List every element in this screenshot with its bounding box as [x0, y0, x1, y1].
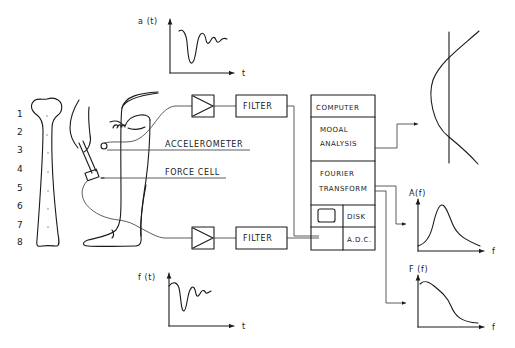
force-time-plot: f (t) t — [138, 273, 246, 331]
A-f-curve — [418, 205, 480, 246]
amplifier-triangle-icon — [193, 228, 213, 248]
force-cell-head — [85, 169, 99, 181]
impact-hammer — [79, 141, 96, 173]
position-label: 4 — [17, 164, 23, 174]
A-f-ylabel: A(f) — [409, 189, 426, 198]
modal-analysis-line1: MOOAL — [320, 126, 348, 134]
F-f-ylabel: F (f) — [409, 265, 428, 274]
lower-amplifier — [192, 227, 214, 249]
accelerometer-label: ACCELEROMETER — [165, 140, 243, 149]
F-f-xlabel: f — [492, 323, 495, 332]
upper-amplifier — [192, 95, 214, 117]
force-spectrum-plot: F (f) f — [409, 265, 495, 332]
disk-icon — [318, 209, 335, 222]
position-label: 7 — [17, 220, 23, 230]
f-t-ylabel: f (t) — [138, 273, 156, 282]
force-cable — [82, 180, 192, 238]
upper-filter-to-adc — [287, 106, 319, 236]
f-t-xlabel: t — [242, 322, 246, 331]
computer-block: COMPUTER MOOAL ANALYSIS FOURIER TRANSFOR… — [311, 95, 375, 250]
hammer-hand — [70, 100, 91, 152]
accelerometer-sensor — [101, 143, 107, 149]
acceleration-time-plot: a (t) t — [138, 17, 246, 78]
diagram-canvas: a (t) t f (t) t 1 2 3 4 5 6 7 8 — [0, 0, 515, 348]
position-label: 6 — [17, 201, 23, 211]
response-spectrum-plot: A(f) f — [409, 189, 495, 256]
modal-to-mode-shape-arrow — [375, 124, 418, 148]
A-f-xlabel: f — [492, 247, 495, 256]
hand-on-knee — [110, 115, 150, 130]
adc-label: A.D.C. — [347, 236, 372, 244]
computer-header: COMPUTER — [316, 104, 359, 112]
tibia-bone — [31, 98, 61, 246]
a-t-xlabel: t — [242, 69, 246, 78]
fourier-line1: FOURIER — [320, 170, 354, 178]
accelerometer-cable — [104, 106, 192, 143]
lower-filter-label: FILTER — [243, 234, 272, 243]
position-label: 8 — [17, 237, 23, 247]
position-numbers: 1 2 3 4 5 6 7 8 — [17, 109, 23, 247]
position-label: 5 — [17, 183, 23, 193]
position-label: 3 — [17, 145, 23, 155]
position-label: 1 — [17, 109, 23, 119]
a-t-curve — [179, 30, 227, 63]
bone-measurement-dots — [46, 115, 49, 228]
F-f-curve — [420, 282, 478, 323]
fourier-to-A-f-arrow — [375, 186, 406, 224]
modal-analysis-line2: ANALYSIS — [320, 140, 357, 148]
fourier-line2: TRANSFORM — [318, 185, 367, 193]
fourier-to-F-f-arrow — [375, 191, 406, 303]
foot-mark — [112, 230, 114, 238]
f-t-curve — [169, 283, 211, 311]
upper-filter-label: FILTER — [243, 102, 272, 111]
amplifier-triangle-icon — [193, 96, 213, 116]
bone-outline — [31, 98, 61, 246]
force-cell-label-text: FORCE CELL — [165, 168, 220, 177]
position-label: 2 — [17, 127, 23, 137]
a-t-ylabel: a (t) — [138, 17, 158, 26]
disk-label: DISK — [347, 213, 366, 221]
mode-shape-plot — [431, 31, 479, 164]
mode-shape-curve — [431, 31, 479, 164]
knee-outline — [122, 93, 158, 108]
